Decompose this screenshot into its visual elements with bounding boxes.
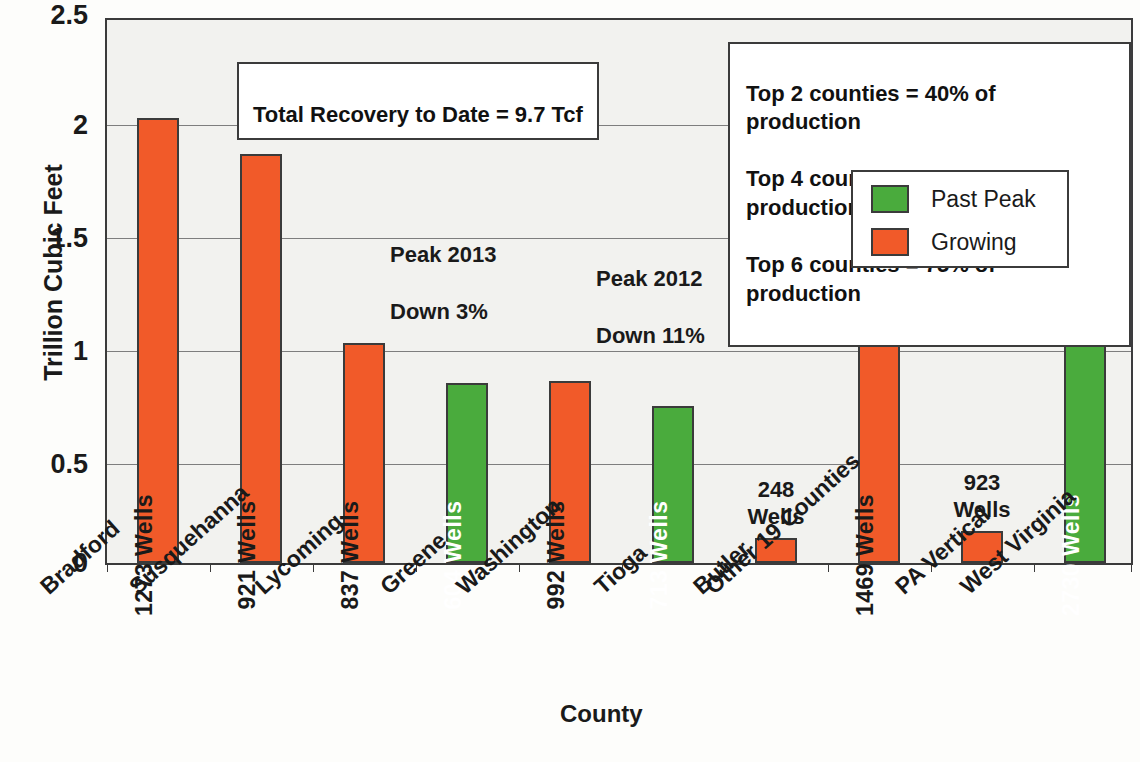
y-tick-2: 2 (0, 110, 88, 141)
legend-label-growing: Growing (931, 229, 1017, 256)
total-recovery-text: Total Recovery to Date = 9.7 Tcf (253, 102, 583, 127)
x-axis-title: County (560, 700, 643, 728)
bar-washington[interactable]: 992 Wells (549, 381, 591, 563)
plot-area: 1273 Wells 921 Wells 837 Wells 604 Wells… (105, 18, 1133, 565)
x-tick-mark (1034, 563, 1035, 572)
legend-item-past-peak[interactable]: Past Peak (871, 185, 1036, 213)
bar-lycoming[interactable]: 837 Wells (343, 343, 385, 563)
y-tick-0_5: 0.5 (0, 449, 88, 480)
y-tick-2_5: 2.5 (0, 0, 88, 31)
legend-swatch-past-peak (871, 185, 909, 213)
x-tick-mark (210, 563, 211, 572)
annotation-tioga-line1: Peak 2012 (596, 265, 705, 293)
legend: Past Peak Growing (851, 170, 1069, 268)
bar-greene[interactable]: 604 Wells (446, 383, 488, 563)
y-tick-1: 1 (0, 336, 88, 367)
bar-label-tioga: 713 Wells (646, 501, 673, 610)
total-recovery-callout: Total Recovery to Date = 9.7 Tcf (237, 62, 599, 140)
bar-label-other-19-counties: 1469 Wells (852, 494, 879, 616)
x-tick-mark (107, 563, 108, 572)
bar-label-lycoming: 837 Wells (337, 501, 364, 610)
annotation-tioga: Peak 2012 Down 11% (596, 237, 705, 378)
bar-other-19-counties[interactable]: 1469 Wells (858, 311, 900, 563)
annotation-greene: Peak 2013 Down 3% (390, 213, 496, 354)
annotation-greene-line1: Peak 2013 (390, 241, 496, 269)
chart-canvas: Trillion Cubic Feet 2.5 2 1.5 1 0.5 0 12… (0, 0, 1140, 762)
x-tick-mark (519, 563, 520, 572)
annotation-tioga-line2: Down 11% (596, 322, 705, 350)
legend-item-growing[interactable]: Growing (871, 228, 1017, 256)
x-tick-mark (313, 563, 314, 572)
y-tick-1_5: 1.5 (0, 223, 88, 254)
bar-tioga[interactable]: 713 Wells (652, 406, 694, 563)
bar-west-virginia[interactable]: 2730 Wells (1064, 333, 1106, 563)
top-counties-line-1: Top 2 counties = 40% of production (746, 80, 1113, 137)
legend-swatch-growing (871, 228, 909, 256)
x-tick-mark (828, 563, 829, 572)
y-axis-title: Trillion Cubic Feet (39, 123, 68, 423)
annotation-greene-line2: Down 3% (390, 298, 496, 326)
bar-label-susquehanna: 921 Wells (234, 501, 261, 610)
legend-label-past-peak: Past Peak (931, 186, 1036, 213)
x-tick-mark (1131, 563, 1132, 572)
bar-bradford[interactable]: 1273 Wells (137, 118, 179, 563)
